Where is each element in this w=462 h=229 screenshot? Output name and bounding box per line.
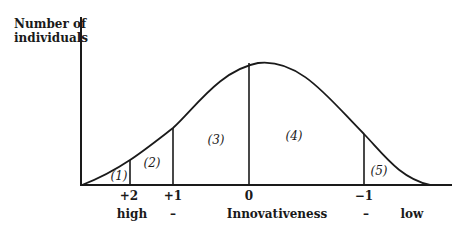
right-dash: –: [363, 207, 369, 221]
tick-zero: 0: [245, 189, 253, 203]
segment-2-label: (2): [144, 156, 161, 170]
segment-4-label: (4): [286, 129, 303, 143]
segment-3-label: (3): [208, 133, 225, 147]
x-axis-label: Innovativeness: [227, 207, 327, 221]
segment-1-label: (1): [111, 169, 128, 183]
low-label: low: [401, 207, 424, 221]
tick-minus1: −1: [355, 189, 373, 203]
tick-plus2: +2: [120, 189, 138, 203]
left-dash: –: [170, 207, 176, 221]
bell-curve-diagram: [0, 0, 462, 229]
high-label: high: [117, 207, 147, 221]
tick-plus1: +1: [164, 189, 182, 203]
segment-5-label: (5): [371, 164, 388, 178]
